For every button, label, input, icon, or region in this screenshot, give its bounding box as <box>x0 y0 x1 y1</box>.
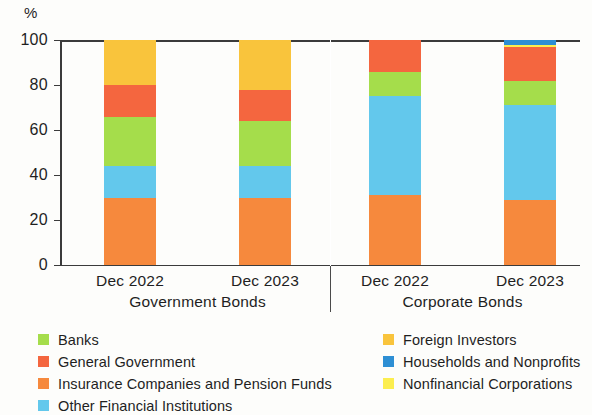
bar-1[interactable] <box>239 40 291 265</box>
y-axis-tick <box>54 265 60 266</box>
x-axis-tick-label: Dec 2022 <box>96 272 164 290</box>
legend-label: Nonfinancial Corporations <box>403 376 572 392</box>
bar-segment[interactable] <box>239 198 291 266</box>
x-axis-tick-label: Dec 2023 <box>231 272 299 290</box>
legend-swatch-icon <box>383 334 394 345</box>
legend-swatch-icon <box>38 378 49 389</box>
bar-segment[interactable] <box>104 117 156 167</box>
bar-segment[interactable] <box>369 195 421 265</box>
legend-swatch-icon <box>383 378 394 389</box>
bar-segment[interactable] <box>104 198 156 266</box>
legend-label: Other Financial Institutions <box>58 398 232 414</box>
bar-segment[interactable] <box>239 40 291 90</box>
y-axis-tick-label: 20 <box>30 211 48 229</box>
y-axis-tick-label: 60 <box>30 121 48 139</box>
bar-segment[interactable] <box>104 40 156 85</box>
legend-swatch-icon <box>383 356 394 367</box>
bar-segment[interactable] <box>369 72 421 97</box>
y-axis-tick <box>54 175 60 176</box>
y-axis-tick <box>54 85 60 86</box>
y-axis-tick-label: 100 <box>20 31 48 49</box>
legend-swatch-icon <box>38 356 49 367</box>
bar-segment[interactable] <box>504 47 556 81</box>
legend-swatch-icon <box>38 400 49 411</box>
legend-item[interactable]: Insurance Companies and Pension Funds <box>38 374 383 393</box>
bar-2[interactable] <box>369 40 421 265</box>
legend-label: General Government <box>58 354 195 370</box>
group-divider <box>330 266 331 312</box>
legend-column-right: Foreign InvestorsHouseholds and Nonprofi… <box>383 330 583 415</box>
bar-segment[interactable] <box>504 105 556 200</box>
bar-segment[interactable] <box>104 166 156 198</box>
legend-label: Banks <box>58 332 99 348</box>
legend: BanksGeneral GovernmentInsurance Compani… <box>38 330 583 415</box>
plot-area: 020406080100 <box>60 40 580 265</box>
y-axis-tick-label: 40 <box>30 166 48 184</box>
bar-segment[interactable] <box>239 90 291 122</box>
bar-segment[interactable] <box>369 96 421 195</box>
legend-item[interactable]: Foreign Investors <box>383 330 583 349</box>
bar-segment[interactable] <box>504 200 556 265</box>
legend-label: Households and Nonprofits <box>403 354 580 370</box>
y-axis-unit-label: % <box>24 4 38 21</box>
x-axis-group-label: Government Bonds <box>129 293 266 311</box>
bar-3[interactable] <box>504 40 556 265</box>
y-axis-line <box>60 40 62 266</box>
legend-item[interactable]: Other Financial Institutions <box>38 396 383 415</box>
x-axis-tick-label: Dec 2023 <box>496 272 564 290</box>
x-axis-tick-label: Dec 2022 <box>361 272 429 290</box>
x-axis-group-label: Corporate Bonds <box>402 293 522 311</box>
legend-column-left: BanksGeneral GovernmentInsurance Compani… <box>38 330 383 415</box>
legend-label: Insurance Companies and Pension Funds <box>58 376 332 392</box>
bar-segment[interactable] <box>104 85 156 117</box>
bar-0[interactable] <box>104 40 156 265</box>
y-axis-tick <box>54 40 60 41</box>
y-axis-tick <box>54 220 60 221</box>
legend-swatch-icon <box>38 334 49 345</box>
y-axis-tick <box>54 130 60 131</box>
y-axis-tick-label: 80 <box>30 76 48 94</box>
legend-label: Foreign Investors <box>403 332 517 348</box>
bar-segment[interactable] <box>504 81 556 106</box>
legend-item[interactable]: Households and Nonprofits <box>383 352 583 371</box>
group-divider-upper <box>330 40 331 266</box>
y-axis-tick-label: 0 <box>39 256 48 274</box>
bar-segment[interactable] <box>369 40 421 72</box>
bar-segment[interactable] <box>239 166 291 198</box>
legend-item[interactable]: General Government <box>38 352 383 371</box>
legend-item[interactable]: Nonfinancial Corporations <box>383 374 583 393</box>
bar-segment[interactable] <box>239 121 291 166</box>
legend-item[interactable]: Banks <box>38 330 383 349</box>
